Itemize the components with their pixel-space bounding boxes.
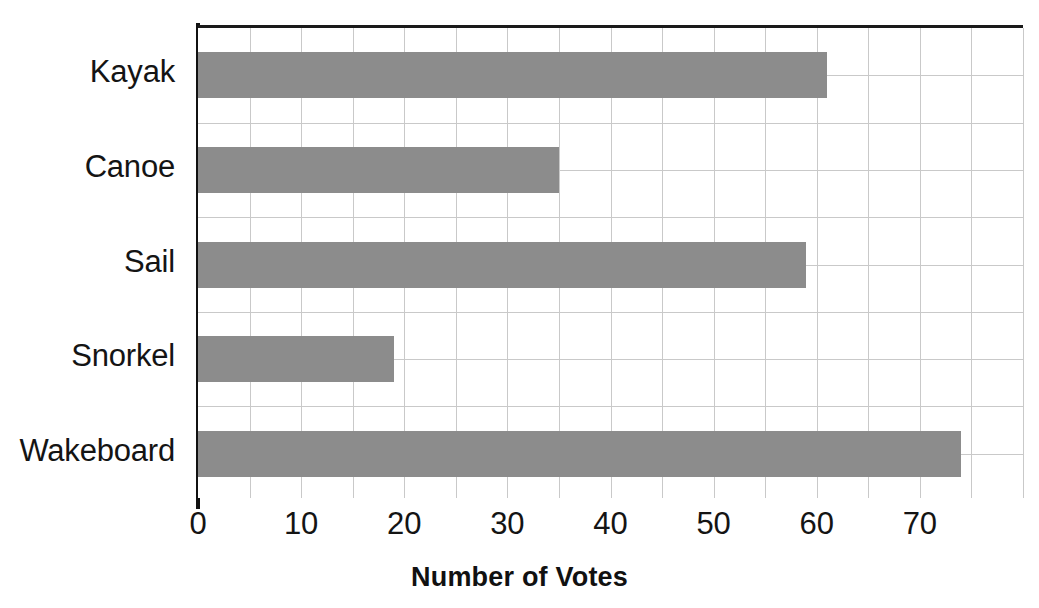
bar-sail bbox=[198, 242, 806, 288]
gridline-horizontal bbox=[198, 123, 1023, 124]
bar-chart: KayakCanoeSailSnorkelWakeboard 010203040… bbox=[0, 0, 1039, 608]
bar-canoe bbox=[198, 147, 559, 193]
category-label-kayak: Kayak bbox=[90, 54, 175, 90]
x-axis-title: Number of Votes bbox=[0, 562, 1039, 593]
bar-wakeboard bbox=[198, 431, 961, 477]
bar-kayak bbox=[198, 52, 827, 98]
gridline-vertical bbox=[971, 28, 972, 498]
bar-snorkel bbox=[198, 336, 394, 382]
x-tick-label-30: 30 bbox=[490, 506, 524, 542]
x-tick-label-50: 50 bbox=[696, 506, 730, 542]
gridline-vertical bbox=[1023, 28, 1024, 498]
x-tick-label-0: 0 bbox=[189, 506, 206, 542]
x-tick-label-20: 20 bbox=[387, 506, 421, 542]
category-label-snorkel: Snorkel bbox=[71, 338, 175, 374]
gridline-horizontal bbox=[198, 312, 1023, 313]
x-tick-label-40: 40 bbox=[593, 506, 627, 542]
gridline-vertical bbox=[817, 28, 818, 498]
gridline-horizontal bbox=[198, 406, 1023, 407]
gridline-vertical bbox=[920, 28, 921, 498]
category-label-canoe: Canoe bbox=[85, 149, 175, 185]
x-tick-label-60: 60 bbox=[800, 506, 834, 542]
x-tick-label-10: 10 bbox=[284, 506, 318, 542]
gridline-horizontal bbox=[198, 217, 1023, 218]
x-tick-label-70: 70 bbox=[903, 506, 937, 542]
category-label-sail: Sail bbox=[124, 244, 175, 280]
plot-area bbox=[198, 25, 1023, 498]
gridline-vertical bbox=[868, 28, 869, 498]
category-label-wakeboard: Wakeboard bbox=[19, 433, 175, 469]
